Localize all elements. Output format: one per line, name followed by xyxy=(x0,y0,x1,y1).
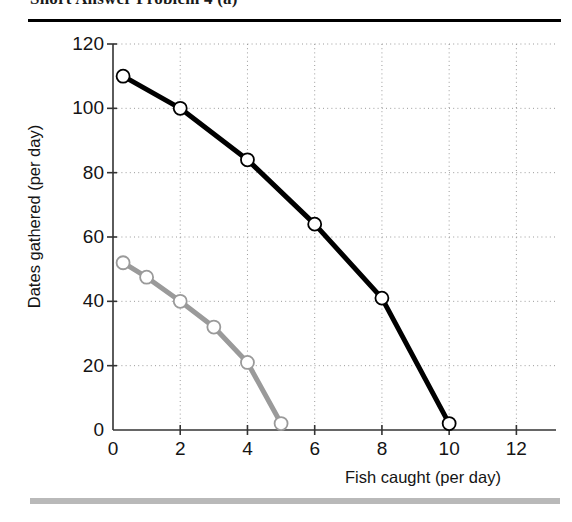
data-point-marker xyxy=(117,256,130,269)
series-markers xyxy=(117,70,456,430)
data-point-marker xyxy=(241,356,254,369)
series-line-inner-ppf-gray xyxy=(123,263,281,424)
page-title: Short Answer Problem 4 (a) xyxy=(30,0,238,9)
data-point-marker xyxy=(275,417,288,430)
data-point-marker xyxy=(308,218,321,231)
data-point-marker xyxy=(443,417,456,430)
data-point-marker xyxy=(140,271,153,284)
data-point-marker xyxy=(174,295,187,308)
data-point-marker xyxy=(207,321,220,334)
top-divider-rule xyxy=(28,19,561,22)
gridlines-horizontal xyxy=(113,44,556,366)
data-point-marker xyxy=(117,70,130,83)
data-point-marker xyxy=(375,292,388,305)
series-line-outer-ppf-black xyxy=(123,76,449,423)
data-point-marker xyxy=(241,153,254,166)
data-point-marker xyxy=(174,102,187,115)
chart-figure: Dates gathered (per day) Fish caught (pe… xyxy=(0,24,572,494)
bottom-divider-rule xyxy=(30,498,560,504)
series-lines xyxy=(123,76,449,423)
plot-canvas xyxy=(0,24,572,494)
